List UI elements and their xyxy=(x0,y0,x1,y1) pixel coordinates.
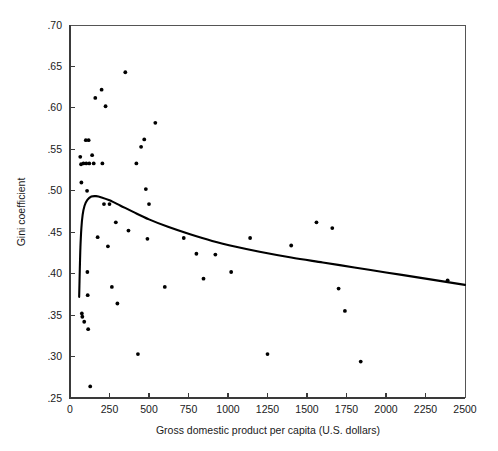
x-tick-label: 500 xyxy=(140,403,158,415)
x-tick-label: 2000 xyxy=(374,403,398,415)
data-point xyxy=(80,315,84,319)
data-point xyxy=(144,187,148,191)
data-point xyxy=(182,236,186,240)
data-point xyxy=(146,237,150,241)
data-point xyxy=(343,309,347,313)
data-point xyxy=(195,252,199,256)
data-point xyxy=(104,104,108,108)
data-point xyxy=(289,244,293,248)
y-tick-label: .25 xyxy=(47,392,62,404)
data-point xyxy=(116,302,120,306)
data-point xyxy=(86,293,90,297)
data-point xyxy=(114,220,118,224)
data-point xyxy=(142,137,146,141)
scatter-plot-figure: .25.30.35.40.45.50.55.60.65.70 025050075… xyxy=(0,0,498,451)
x-tick-label: 750 xyxy=(180,403,198,415)
y-tick-label: .60 xyxy=(47,101,62,113)
data-point xyxy=(229,270,233,274)
x-tick-label: 1750 xyxy=(335,403,359,415)
data-point xyxy=(86,327,90,331)
y-axis-ticks: .25.30.35.40.45.50.55.60.65.70 xyxy=(47,19,75,404)
y-tick-label: .30 xyxy=(47,350,62,362)
data-point xyxy=(330,226,334,230)
x-axis-label: Gross domestic product per capita (U.S. … xyxy=(156,424,380,436)
data-point xyxy=(102,202,106,206)
y-tick-label: .55 xyxy=(47,143,62,155)
data-point xyxy=(315,220,319,224)
chart-canvas: .25.30.35.40.45.50.55.60.65.70 025050075… xyxy=(0,0,498,451)
data-point xyxy=(153,121,157,125)
data-point xyxy=(213,253,217,257)
x-tick-label: 0 xyxy=(67,403,73,415)
data-point xyxy=(127,229,131,233)
x-tick-label: 1000 xyxy=(216,403,240,415)
data-point xyxy=(80,312,84,316)
data-points xyxy=(78,70,449,388)
data-point xyxy=(147,202,151,206)
x-tick-label: 2500 xyxy=(453,403,477,415)
y-tick-label: .40 xyxy=(47,267,62,279)
data-point xyxy=(202,277,206,281)
data-point xyxy=(359,360,363,364)
data-point xyxy=(79,181,83,185)
data-point xyxy=(248,236,252,240)
data-point xyxy=(106,244,110,248)
x-tick-label: 1250 xyxy=(256,403,280,415)
x-axis-ticks: 02505007501000125015001750200022502500 xyxy=(67,393,477,415)
data-point xyxy=(78,155,82,159)
fitted-curve xyxy=(79,196,465,297)
data-point xyxy=(87,138,91,142)
x-tick-label: 2250 xyxy=(414,403,438,415)
data-point xyxy=(87,162,91,166)
y-tick-label: .65 xyxy=(47,60,62,72)
data-point xyxy=(82,320,86,324)
data-point xyxy=(85,270,89,274)
y-axis-label: Gini coefficient xyxy=(15,178,27,247)
data-point xyxy=(96,235,100,239)
data-point xyxy=(139,145,143,149)
regression-curve xyxy=(79,196,465,297)
data-point xyxy=(134,162,138,166)
plot-axis-left-bottom xyxy=(70,25,465,398)
data-point xyxy=(100,88,104,92)
x-tick-label: 1500 xyxy=(295,403,319,415)
data-point xyxy=(136,352,140,356)
data-point xyxy=(163,285,167,289)
data-point xyxy=(88,385,92,389)
data-point xyxy=(90,153,94,157)
data-point xyxy=(123,70,127,74)
y-tick-label: .50 xyxy=(47,184,62,196)
data-point xyxy=(92,162,96,166)
data-point xyxy=(337,287,341,291)
data-point xyxy=(266,352,270,356)
data-point xyxy=(110,285,114,289)
data-point xyxy=(93,96,97,100)
y-tick-label: .35 xyxy=(47,309,62,321)
y-tick-label: .70 xyxy=(47,19,62,31)
plot-frame xyxy=(70,25,465,398)
y-tick-label: .45 xyxy=(47,226,62,238)
data-point xyxy=(85,189,89,193)
x-tick-label: 250 xyxy=(101,403,119,415)
plot-frame-top-right xyxy=(70,25,465,398)
data-point xyxy=(446,278,450,282)
data-point xyxy=(108,202,112,206)
data-point xyxy=(100,162,104,166)
